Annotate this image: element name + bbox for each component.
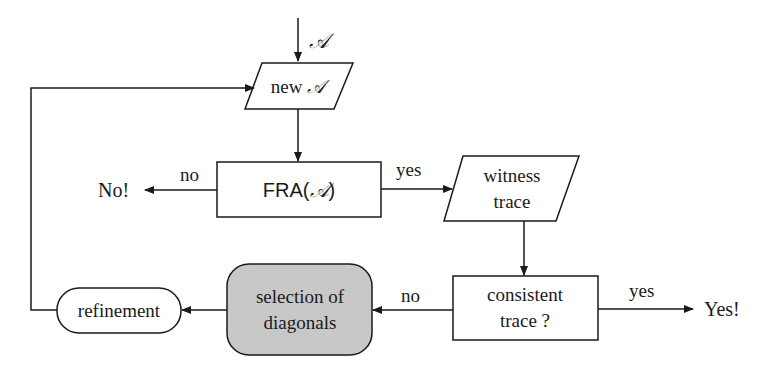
consistent-line2: trace ? bbox=[500, 310, 550, 331]
input-label: 𝒜 bbox=[309, 29, 335, 53]
node-witness-trace: witness trace bbox=[444, 156, 579, 221]
svg-text:FRA(𝒜): FRA(𝒜) bbox=[263, 179, 335, 201]
node-consistent-trace: consistent trace ? bbox=[453, 276, 598, 340]
node-new-a: new 𝒜 bbox=[245, 63, 353, 109]
fra-no-label: no bbox=[180, 164, 199, 185]
selection-line2: diagonals bbox=[264, 312, 337, 333]
node-fra: FRA(𝒜) bbox=[217, 162, 381, 217]
new-a-prefix: new bbox=[271, 76, 307, 97]
consistent-yes-label: yes bbox=[629, 280, 654, 301]
selection-line1: selection of bbox=[256, 286, 345, 307]
fra-suffix: ) bbox=[329, 179, 336, 201]
svg-text:new 𝒜: new 𝒜 bbox=[271, 76, 331, 97]
consistent-no-label: no bbox=[401, 285, 420, 306]
refinement-label: refinement bbox=[78, 300, 161, 321]
fra-prefix: FRA( bbox=[263, 179, 310, 201]
outcome-no: No! bbox=[98, 179, 129, 201]
consistent-line1: consistent bbox=[487, 284, 564, 305]
flowchart: 𝒜 new 𝒜 FRA(𝒜) no No! yes witness trace … bbox=[0, 0, 764, 370]
outcome-yes: Yes! bbox=[704, 298, 740, 320]
node-selection-of-diagonals: selection of diagonals bbox=[227, 264, 372, 355]
node-refinement: refinement bbox=[57, 288, 181, 333]
fra-yes-label: yes bbox=[396, 159, 421, 180]
witness-line1: witness bbox=[484, 165, 541, 186]
witness-line2: trace bbox=[494, 191, 531, 212]
